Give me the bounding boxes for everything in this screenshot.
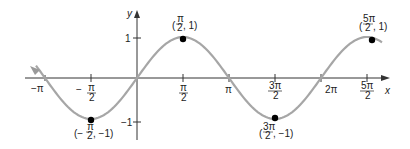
label-3pi-over-2-neg-1: ( 3π 2 , −1) bbox=[259, 121, 293, 141]
x-tick-neg-pi: −π bbox=[31, 83, 44, 94]
point-pi-over-2 bbox=[180, 36, 186, 42]
svg-text:(−: (− bbox=[74, 128, 83, 139]
label-neg-pi-over-2-neg-1: (− π 2 , −1) bbox=[74, 121, 113, 141]
sine-graph: y x 1 −1 −π − π 2 π 2 π 3π 2 2π 5π 2 ( π… bbox=[0, 0, 410, 149]
svg-text:2: 2 bbox=[265, 130, 271, 141]
x-tick-5pi-over-2: 5π 2 bbox=[360, 80, 374, 101]
svg-text:2: 2 bbox=[365, 22, 371, 33]
svg-text:, 1): , 1) bbox=[373, 21, 387, 32]
x-tick-2pi: 2π bbox=[325, 84, 338, 95]
x-tick-pi-over-2: π 2 bbox=[179, 82, 188, 103]
svg-text:, 1): , 1) bbox=[183, 20, 197, 31]
label-pi-over-2-1: ( π 2 , 1) bbox=[172, 13, 197, 33]
x-tick-3pi-over-2: 3π 2 bbox=[268, 80, 282, 101]
svg-text:, −1): , −1) bbox=[273, 128, 293, 139]
svg-text:2: 2 bbox=[89, 92, 95, 103]
svg-text:, −1): , −1) bbox=[93, 128, 113, 139]
svg-text:2: 2 bbox=[365, 90, 371, 101]
x-tick-pi: π bbox=[225, 84, 232, 95]
y-tick-neg-1: −1 bbox=[121, 117, 133, 128]
y-axis-label: y bbox=[126, 8, 133, 19]
x-axis-arrow-icon bbox=[381, 75, 390, 81]
y-tick-1: 1 bbox=[125, 33, 131, 44]
point-5pi-over-2 bbox=[369, 37, 375, 43]
svg-text:−: − bbox=[76, 84, 82, 95]
label-5pi-over-2-1: ( 5π 2 , 1) bbox=[359, 13, 387, 33]
x-tick-neg-pi-over-2: − π 2 bbox=[76, 82, 96, 103]
svg-text:2: 2 bbox=[181, 92, 187, 103]
svg-text:(: ( bbox=[172, 20, 176, 31]
y-axis-arrow-icon bbox=[134, 10, 140, 18]
svg-text:2: 2 bbox=[273, 90, 279, 101]
x-axis-label: x bbox=[384, 85, 391, 96]
